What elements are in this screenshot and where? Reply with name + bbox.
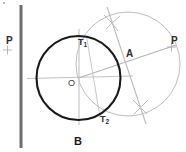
arc-intersection-mark-top bbox=[104, 15, 120, 31]
label-t1: T1 bbox=[78, 38, 87, 47]
label-t1-subscript: 1 bbox=[84, 41, 88, 48]
label-t2: T2 bbox=[100, 115, 109, 124]
figure-caption: B bbox=[74, 136, 82, 147]
arc-intersection-mark-bottom bbox=[133, 100, 148, 114]
geometry-figure bbox=[0, 0, 186, 152]
label-t2-base: T bbox=[100, 114, 106, 124]
point-marker-p-left bbox=[3, 46, 12, 55]
label-t2-subscript: 2 bbox=[106, 118, 110, 125]
label-a: A bbox=[126, 49, 133, 59]
label-t1-base: T bbox=[78, 37, 84, 47]
figure-canvas: P P A O T1 T2 B bbox=[0, 0, 186, 152]
label-p-right: P bbox=[171, 36, 178, 46]
label-o: O bbox=[68, 79, 75, 88]
label-p-left: P bbox=[6, 36, 13, 46]
